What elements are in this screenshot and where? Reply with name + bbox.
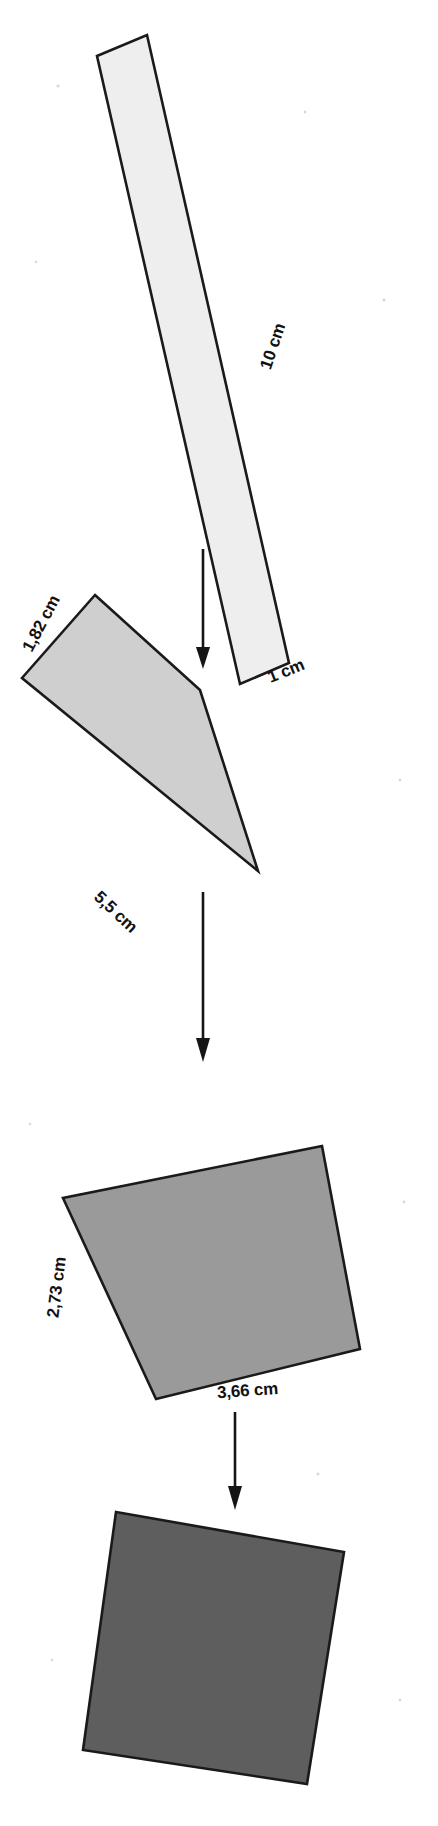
- step-2-group: 1,82 cm 5,5 cm: [18, 592, 258, 937]
- shape-square-final: [83, 1512, 344, 1784]
- shape-rect-5_5x1_82: [22, 595, 258, 871]
- step-4-group: [83, 1512, 344, 1784]
- label-2_73cm: 2,73 cm: [43, 1256, 69, 1319]
- transform-arrow-3: [228, 1412, 242, 1510]
- label-3_66cm: 3,66 cm: [217, 1379, 279, 1402]
- scan-noise: [29, 84, 406, 1701]
- transform-arrow-2: [196, 892, 210, 1062]
- diagram-canvas: 10 cm 1 cm 1,82 cm 5,5 cm 2,73 cm 3,66 c…: [0, 0, 438, 1826]
- step-3-group: 2,73 cm 3,66 cm: [43, 1146, 360, 1402]
- label-10cm: 10 cm: [256, 321, 289, 372]
- transform-arrow-1: [196, 549, 210, 669]
- shape-rect-3_66x2_73: [63, 1146, 360, 1399]
- label-5_5cm: 5,5 cm: [90, 887, 141, 936]
- geometry-diagram: 10 cm 1 cm 1,82 cm 5,5 cm 2,73 cm 3,66 c…: [0, 0, 438, 1826]
